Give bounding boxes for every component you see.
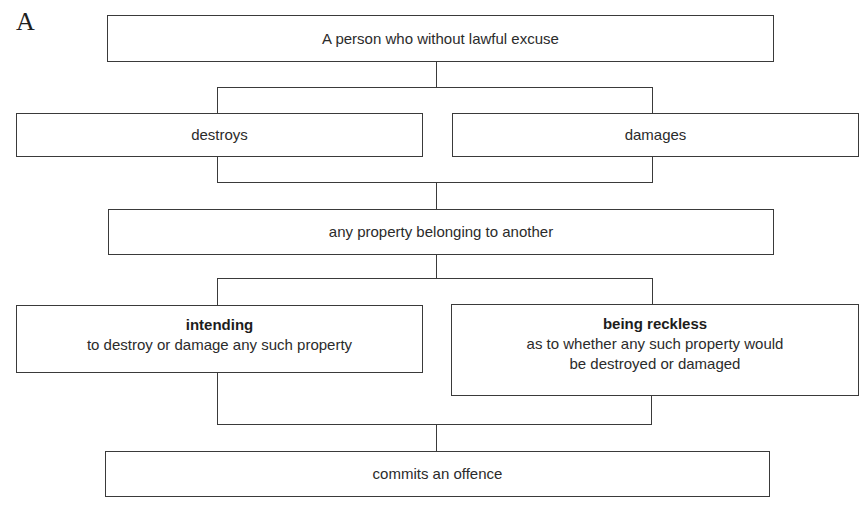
connector-line bbox=[436, 254, 437, 279]
node-text-line1: as to whether any such property would bbox=[527, 334, 784, 354]
connector-line bbox=[651, 395, 652, 425]
connector-line bbox=[652, 156, 653, 183]
node-person-without-lawful-excuse: A person who without lawful excuse bbox=[107, 15, 774, 62]
connector-line bbox=[217, 278, 218, 306]
node-text: to destroy or damage any such property bbox=[87, 335, 352, 355]
connector-line bbox=[436, 424, 437, 452]
node-damages: damages bbox=[452, 113, 859, 157]
node-text: any property belonging to another bbox=[329, 222, 553, 242]
connector-line bbox=[217, 182, 653, 183]
node-text: destroys bbox=[191, 125, 248, 145]
figure-label: A bbox=[16, 9, 35, 35]
node-title: being reckless bbox=[603, 314, 707, 334]
connector-line bbox=[217, 372, 218, 425]
node-being-reckless: being reckless as to whether any such pr… bbox=[451, 304, 859, 396]
node-text-line2: be destroyed or damaged bbox=[570, 354, 741, 374]
node-title: intending bbox=[186, 315, 254, 335]
connector-line bbox=[436, 182, 437, 210]
connector-line bbox=[217, 87, 218, 114]
node-text: A person who without lawful excuse bbox=[322, 29, 559, 49]
node-commits-an-offence: commits an offence bbox=[105, 451, 770, 497]
connector-line bbox=[217, 424, 652, 425]
connector-line bbox=[217, 278, 653, 279]
connector-line bbox=[652, 87, 653, 114]
node-destroys: destroys bbox=[16, 113, 423, 157]
node-text: damages bbox=[625, 125, 687, 145]
node-text: commits an offence bbox=[373, 464, 503, 484]
connector-line bbox=[652, 278, 653, 305]
node-property-belonging-to-another: any property belonging to another bbox=[108, 209, 774, 255]
connector-line bbox=[217, 156, 218, 183]
connector-line bbox=[436, 61, 437, 88]
connector-line bbox=[217, 87, 653, 88]
node-intending: intending to destroy or damage any such … bbox=[16, 305, 423, 373]
